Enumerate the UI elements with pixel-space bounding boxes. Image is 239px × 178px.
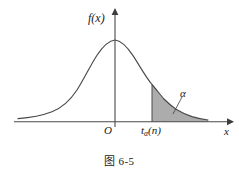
x-axis-label: x xyxy=(224,126,229,137)
tail-area-label: α xyxy=(180,88,186,99)
origin-label: O xyxy=(104,125,112,136)
y-axis-arrowhead xyxy=(112,8,119,15)
y-axis-label: f(x) xyxy=(88,12,105,24)
figure-caption: 图6-5 xyxy=(0,152,239,168)
critical-value-argument: (n) xyxy=(148,124,161,136)
density-curve xyxy=(18,40,208,120)
caption-prefix: 图 xyxy=(104,155,115,167)
critical-value-label: tα(n) xyxy=(141,125,161,138)
caption-number: 6-5 xyxy=(118,155,134,167)
figure-container: f(x) O x tα(n) α 图6-5 xyxy=(0,0,239,178)
